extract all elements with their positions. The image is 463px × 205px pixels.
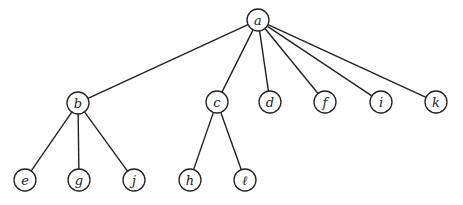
edge-a-f bbox=[265, 29, 318, 94]
node-label: g bbox=[75, 173, 83, 188]
edge-b-j bbox=[84, 112, 127, 171]
edge-c-l bbox=[221, 112, 242, 169]
node-l: ℓ bbox=[234, 169, 256, 191]
edge-a-c bbox=[222, 30, 253, 92]
node-d: d bbox=[259, 91, 281, 113]
node-j: j bbox=[123, 169, 145, 191]
edge-a-d bbox=[260, 31, 269, 91]
node-e: e bbox=[14, 169, 36, 191]
node-h: h bbox=[179, 169, 201, 191]
tree-diagram-svg: abcdfikegjhℓ bbox=[0, 0, 463, 205]
node-a: a bbox=[247, 9, 269, 31]
edge-c-h bbox=[194, 112, 214, 169]
node-label: b bbox=[74, 96, 82, 111]
node-label: a bbox=[254, 13, 262, 28]
node-label: e bbox=[21, 173, 29, 188]
node-b: b bbox=[67, 92, 89, 114]
node-label: i bbox=[379, 95, 383, 110]
edge-b-e bbox=[31, 112, 72, 171]
node-g: g bbox=[68, 169, 90, 191]
tree-diagram: abcdfikegjhℓ bbox=[0, 0, 463, 205]
node-k: k bbox=[425, 91, 447, 113]
edge-layer bbox=[31, 25, 426, 172]
node-i: i bbox=[370, 91, 392, 113]
node-label: k bbox=[432, 95, 440, 110]
node-f: f bbox=[314, 91, 336, 113]
node-c: c bbox=[206, 91, 228, 113]
edge-a-i bbox=[267, 26, 372, 96]
node-label: ℓ bbox=[242, 173, 248, 188]
node-label: c bbox=[213, 95, 221, 110]
node-label: d bbox=[266, 95, 274, 110]
edge-b-g bbox=[78, 114, 79, 169]
node-label: h bbox=[186, 173, 194, 188]
